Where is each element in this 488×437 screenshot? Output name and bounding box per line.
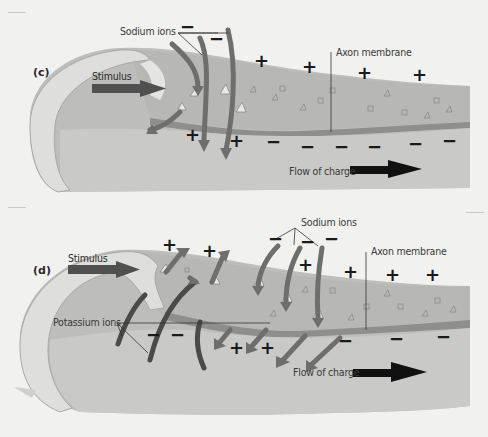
plus-sign: + — [412, 66, 427, 84]
label-stimulus-c: Stimulus — [92, 70, 131, 82]
label-potassium-ions-d: Potassium ions — [53, 316, 121, 328]
minus-sign: − — [324, 230, 339, 248]
minus-sign: − — [338, 332, 353, 350]
panel-c-sodium-influx: (c) Sodium ions Stimulus Axon membrane F… — [0, 0, 488, 200]
label-axon-membrane-d: Axon membrane — [371, 245, 447, 257]
minus-sign: − — [300, 138, 315, 156]
label-stimulus-d: Stimulus — [68, 252, 107, 264]
label-flow-of-charge-d: Flow of charge — [293, 366, 359, 378]
minus-sign: − — [367, 138, 382, 156]
plus-sign: + — [229, 339, 244, 357]
label-sodium-ions-c: Sodium ions — [120, 25, 176, 37]
plus-sign: + — [302, 58, 317, 76]
plus-sign: + — [202, 242, 217, 260]
panel-d-potassium-efflux: (d) Stimulus Sodium ions Potassium ions … — [0, 200, 488, 437]
panel-letter-c: (c) — [33, 66, 50, 79]
minus-sign: − — [334, 138, 349, 156]
plus-sign: + — [357, 64, 372, 82]
plus-sign: + — [385, 266, 400, 284]
minus-sign: − — [442, 132, 457, 150]
plus-sign: + — [254, 52, 269, 70]
minus-sign: − — [408, 135, 423, 153]
minus-sign: − — [436, 328, 451, 346]
plus-sign: + — [343, 263, 358, 281]
label-sodium-ions-d: Sodium ions — [301, 216, 357, 228]
plus-sign: + — [185, 126, 200, 144]
axon-diagram-c — [0, 0, 488, 200]
plus-sign: + — [298, 256, 313, 274]
minus-sign: − — [300, 233, 315, 251]
minus-sign: − — [146, 326, 161, 344]
minus-sign: − — [170, 326, 185, 344]
plus-sign: + — [229, 132, 244, 150]
plus-sign: + — [425, 266, 440, 284]
minus-sign: − — [268, 230, 283, 248]
crop-mark — [8, 12, 26, 13]
minus-sign: − — [389, 330, 404, 348]
minus-sign: − — [209, 30, 224, 48]
label-axon-membrane-c: Axon membrane — [336, 46, 412, 58]
label-flow-of-charge-c: Flow of charge — [289, 165, 355, 177]
panel-letter-d: (d) — [33, 264, 51, 277]
minus-sign: − — [266, 133, 281, 151]
plus-sign: + — [260, 339, 275, 357]
plus-sign: + — [162, 236, 177, 254]
minus-sign: − — [180, 18, 195, 36]
